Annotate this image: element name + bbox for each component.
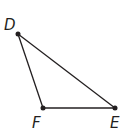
triangle-diagram: D F E <box>0 0 128 133</box>
vertex-f-label: F <box>32 114 41 132</box>
vertex-e-point <box>113 106 118 111</box>
vertex-e-label: E <box>110 114 120 132</box>
side-df <box>18 34 43 108</box>
side-de <box>18 34 115 108</box>
vertex-f-point <box>41 106 46 111</box>
vertex-d-label: D <box>4 16 16 34</box>
vertex-d-point <box>16 32 21 37</box>
